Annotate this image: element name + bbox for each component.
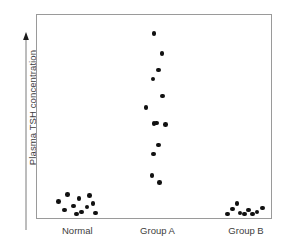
data-point (235, 201, 240, 206)
plot-area (37, 15, 271, 218)
data-point (150, 173, 155, 178)
data-point (79, 210, 84, 215)
y-axis: Plasma TSH concentration (0, 14, 36, 219)
x-tick-label-group-a: Group A (118, 225, 198, 236)
data-point (260, 206, 265, 211)
x-tick-label-normal: Normal (37, 225, 117, 236)
data-point (255, 210, 260, 215)
x-tick-label-group-b: Group B (206, 225, 285, 236)
data-point (163, 122, 168, 127)
data-point (156, 143, 161, 148)
data-point (74, 212, 79, 217)
data-point (77, 196, 82, 201)
data-point (154, 121, 159, 126)
data-point (71, 204, 76, 209)
data-point (230, 207, 235, 212)
data-point (151, 152, 156, 157)
chart-figure: Plasma TSH concentration Normal Group A … (0, 0, 285, 248)
data-point (91, 201, 96, 206)
data-point (242, 212, 247, 217)
data-point (87, 193, 92, 198)
data-point (85, 205, 90, 210)
data-point (62, 208, 67, 213)
data-point (152, 31, 157, 36)
x-axis-tick-labels: Normal Group A Group B (36, 225, 272, 243)
data-point (225, 212, 230, 217)
data-point (144, 105, 149, 110)
data-point (93, 211, 98, 216)
data-point (151, 77, 156, 82)
data-point (65, 192, 70, 197)
data-point (157, 180, 162, 185)
plot-frame (36, 14, 272, 219)
data-point (56, 199, 61, 204)
data-point (160, 51, 165, 56)
data-point (160, 94, 165, 99)
data-point (156, 68, 161, 73)
